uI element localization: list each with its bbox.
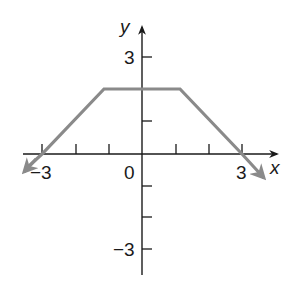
y-axis-label: y [118,16,131,37]
y-ticks [142,57,152,249]
function-curve [28,89,264,178]
origin-label: 0 [124,162,135,183]
x-axis-label: x [269,157,281,178]
x-tick-label-3: 3 [236,162,247,183]
y-tick-label-3: 3 [124,47,135,68]
y-tick-label-neg3: −3 [113,239,135,260]
x-tick-label-neg3: −3 [30,162,52,183]
graph-figure: y x 3 −3 0 −3 3 [0,0,297,293]
